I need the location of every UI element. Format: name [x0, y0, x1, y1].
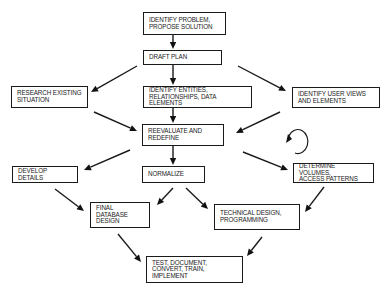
node-label-line: PROPOSE SOLUTION: [149, 24, 212, 31]
node-technical-design: TECHNICAL DESIGN,PROGRAMMING: [214, 204, 300, 230]
node-test-implement: TEST, DOCUMENT,CONVERT, TRAIN, IMPLEMENT: [146, 256, 243, 283]
arrowhead-icon: [305, 204, 312, 212]
arrowhead-icon: [170, 42, 176, 49]
node-label-line: DEVELOP DETAILS: [18, 168, 72, 181]
edge-reevaluate-to-determine-volumes: [243, 152, 288, 170]
node-identify-user-views: IDENTIFY USER VIEWSAND ELEMENTS: [292, 87, 380, 108]
node-identify-entities: IDENTIFY ENTITIES,RELATIONSHIPS, DATA EL…: [143, 86, 252, 108]
node-normalize: NORMALIZE: [142, 166, 205, 183]
node-label-line: SITUATION: [17, 97, 81, 104]
node-develop-details: DEVELOP DETAILS: [12, 166, 78, 183]
arrowhead-icon: [76, 204, 84, 211]
node-label-line: NORMALIZE: [148, 171, 184, 178]
edge-draft-plan-to-research-existing: [91, 66, 137, 92]
edge-technical-design-to-test-implement: [247, 237, 262, 256]
node-label-line: REDEFINE: [148, 135, 202, 142]
node-label-line: PROGRAMMING: [220, 217, 281, 224]
edge-reevaluate-to-develop-details: [84, 150, 130, 170]
node-draft-plan: DRAFT PLAN: [143, 50, 222, 65]
self-loop-icon: [286, 130, 308, 154]
node-label-line: CONVERT, TRAIN, IMPLEMENT: [152, 266, 237, 279]
edge-draft-plan-to-identify-entities: [170, 65, 176, 85]
arrowhead-icon: [170, 116, 176, 123]
edge-final-db-design-to-test-implement: [118, 234, 141, 262]
node-final-db-design: FINAL DATABASEDESIGN: [90, 202, 150, 228]
arrowhead-icon: [170, 78, 176, 85]
node-label-line: AND ELEMENTS: [298, 98, 366, 105]
node-identify-problem: IDENTIFY PROBLEM,PROPOSE SOLUTION: [143, 12, 226, 35]
node-determine-volumes: DETERMINE VOLUMES,ACCESS PATTERNS: [293, 163, 374, 183]
edge-reevaluate-to-normalize: [170, 146, 176, 165]
edge-normalize-to-final-db-design: [157, 188, 173, 205]
connector-layer: [0, 0, 390, 293]
node-label-line: RELATIONSHIPS, DATA ELEMENTS: [149, 94, 246, 107]
edge-determine-volumes-to-technical-design: [305, 187, 324, 212]
edge-research-existing-to-reevaluate: [94, 112, 137, 131]
edge-identify-user-views-to-reevaluate: [236, 112, 280, 133]
edge-normalize-to-technical-design: [186, 188, 208, 209]
arrowhead-icon: [170, 158, 176, 165]
edge-identify-entities-to-reevaluate: [170, 108, 176, 123]
node-label-line: ACCESS PATTERNS: [299, 176, 368, 183]
node-reevaluate: REEVALUATE ANDREDEFINE: [142, 124, 224, 146]
edge-identify-problem-to-draft-plan: [170, 35, 176, 49]
node-label-line: DRAFT PLAN: [149, 54, 187, 61]
edge-develop-details-to-final-db-design: [55, 189, 84, 211]
node-research-existing: RESEARCH EXISTINGSITUATION: [11, 86, 88, 108]
node-label-line: DESIGN: [96, 218, 144, 225]
